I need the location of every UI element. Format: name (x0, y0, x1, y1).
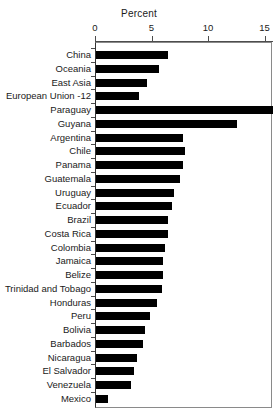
category-label: Chile (69, 146, 91, 156)
bar (96, 271, 163, 279)
category-label: Venezuela (47, 380, 91, 390)
y-axis-tick (91, 254, 95, 255)
bar (96, 326, 145, 334)
y-axis-tick (91, 241, 95, 242)
bar (96, 216, 168, 224)
category-label: Mexico (61, 394, 91, 404)
category-label: Ecuador (56, 201, 91, 211)
bar (96, 299, 157, 307)
y-axis-tick (91, 199, 95, 200)
bar (96, 79, 147, 87)
bar (96, 381, 131, 389)
category-label: European Union -12 (6, 91, 91, 101)
category-label: Guyana (58, 119, 91, 129)
y-axis-tick (91, 378, 95, 379)
bar (96, 147, 185, 155)
category-label: Honduras (50, 298, 91, 308)
y-axis-tick (91, 186, 95, 187)
bar (96, 134, 183, 142)
category-label: Belize (65, 270, 91, 280)
category-label: Colombia (51, 243, 91, 253)
x-axis-tick-label: 0 (92, 22, 97, 33)
category-label: El Salvador (42, 366, 91, 376)
bar (96, 92, 139, 100)
category-label: China (66, 50, 91, 60)
category-label: Panama (56, 160, 91, 170)
y-axis-tick (91, 392, 95, 393)
bar (96, 312, 150, 320)
bar (96, 189, 174, 197)
bar (96, 367, 134, 375)
category-label: Peru (71, 311, 91, 321)
bar (96, 257, 163, 265)
bar (96, 51, 168, 59)
bar (96, 285, 162, 293)
y-axis-tick (91, 282, 95, 283)
chart-title: Percent (0, 8, 278, 19)
y-axis-tick (91, 172, 95, 173)
category-label: Jamaica (56, 256, 91, 266)
category-label: Nicaragua (48, 353, 91, 363)
bar (96, 175, 180, 183)
category-label: Trinidad and Tobago (5, 284, 91, 294)
category-label: Bolivia (63, 325, 91, 335)
y-axis-tick (91, 227, 95, 228)
y-axis-tick (91, 309, 95, 310)
category-label: Costa Rica (45, 229, 91, 239)
category-label: East Asia (51, 78, 91, 88)
x-axis-tick (208, 36, 209, 42)
bar (96, 354, 137, 362)
y-axis-tick (91, 48, 95, 49)
bar-chart: Percent 051015 ChinaOceaniaEast AsiaEuro… (0, 0, 278, 415)
y-axis-tick (91, 364, 95, 365)
bar (96, 244, 165, 252)
y-axis-tick (91, 103, 95, 104)
bar (96, 120, 237, 128)
y-axis-tick (91, 144, 95, 145)
y-axis-tick (91, 268, 95, 269)
bar (96, 202, 172, 210)
y-axis-tick (91, 213, 95, 214)
bar (96, 395, 108, 403)
x-axis-tick-label: 10 (203, 22, 214, 33)
category-label: Guatemala (45, 174, 91, 184)
category-label: Argentina (50, 133, 91, 143)
y-axis-tick (91, 351, 95, 352)
y-axis-tick (91, 296, 95, 297)
y-axis-tick (91, 89, 95, 90)
x-axis-tick (95, 36, 96, 42)
category-label: Paraguay (50, 105, 91, 115)
bar (96, 106, 273, 114)
y-axis-tick (91, 131, 95, 132)
x-axis-tick (265, 36, 266, 42)
x-axis-tick-label: 5 (149, 22, 154, 33)
y-axis-tick (91, 337, 95, 338)
bar (96, 340, 143, 348)
y-axis-tick (91, 117, 95, 118)
y-axis-tick (91, 158, 95, 159)
bar (96, 65, 159, 73)
x-axis-tick-label: 15 (259, 22, 270, 33)
category-label: Uruguay (55, 188, 91, 198)
category-label: Barbados (50, 339, 91, 349)
category-label: Oceania (56, 64, 91, 74)
bar (96, 230, 168, 238)
y-axis-tick (91, 323, 95, 324)
category-label: Brazil (67, 215, 91, 225)
bar (96, 161, 183, 169)
x-axis-tick (152, 36, 153, 42)
y-axis-tick (91, 76, 95, 77)
y-axis-tick (91, 62, 95, 63)
